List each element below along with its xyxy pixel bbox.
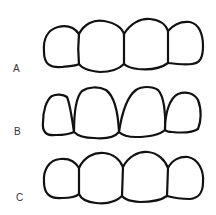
row-c-tooth-3	[122, 152, 169, 202]
row-c-tooth-1	[44, 159, 80, 198]
row-a-tooth-2	[78, 21, 125, 72]
row-c-tooth-4	[167, 157, 203, 199]
row-label-b: B	[14, 127, 21, 137]
row-a-teeth	[44, 19, 203, 72]
row-a-tooth-3	[124, 19, 169, 69]
row-c-teeth	[44, 152, 203, 203]
teeth-diagram	[0, 0, 216, 215]
row-c-tooth-2	[79, 153, 124, 203]
row-label-a: A	[13, 64, 20, 74]
row-b-teeth	[43, 87, 201, 138]
row-b-tooth-1	[43, 95, 74, 136]
row-label-c: C	[16, 193, 23, 203]
row-b-tooth-2	[74, 87, 119, 138]
row-b-tooth-4	[165, 93, 201, 133]
row-a-tooth-1	[44, 26, 79, 67]
row-b-tooth-3	[119, 87, 165, 137]
row-a-tooth-4	[168, 22, 203, 65]
